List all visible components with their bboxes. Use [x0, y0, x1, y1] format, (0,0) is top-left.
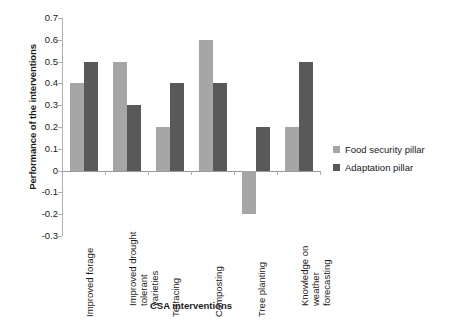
- x-axis-tick-mark: [277, 171, 278, 175]
- y-axis-tick-label: 0.3: [26, 100, 58, 110]
- y-axis-tick-label: 0.2: [26, 122, 58, 132]
- y-axis-tick-mark: [58, 171, 62, 172]
- x-axis-category-label: Knowledge on weather forecasting: [299, 220, 332, 306]
- legend-item[interactable]: Adaptation pillar: [333, 158, 449, 176]
- legend-label: Adaptation pillar: [345, 162, 413, 173]
- bar-chart-figure: Performance of the interventions 0.70.60…: [0, 0, 451, 328]
- x-axis-tick-mark: [148, 171, 149, 175]
- y-axis-tick-mark: [58, 105, 62, 106]
- x-axis-tick-mark: [234, 171, 235, 175]
- bar: [70, 83, 84, 170]
- legend-label: Food security pillar: [345, 144, 425, 155]
- legend-swatch-icon: [333, 146, 340, 153]
- y-axis-tick-mark: [58, 214, 62, 215]
- y-axis-tick-mark: [58, 192, 62, 193]
- y-axis-line: [62, 18, 63, 236]
- y-axis-tick-mark: [58, 83, 62, 84]
- bar: [156, 127, 170, 171]
- legend-item[interactable]: Food security pillar: [333, 140, 449, 158]
- x-axis-tick-mark: [105, 171, 106, 175]
- x-axis-category-label: Improved drought tolerant varieties: [127, 220, 160, 306]
- y-axis-tick-label: 0.1: [26, 144, 58, 154]
- legend-swatch-icon: [333, 164, 340, 171]
- bar: [170, 83, 184, 170]
- bar: [199, 40, 213, 171]
- y-axis-tick-mark: [58, 127, 62, 128]
- y-axis-tick-mark: [58, 236, 62, 237]
- y-axis-tick-label: -0.3: [26, 231, 58, 241]
- y-axis-tick-label: 0.7: [26, 13, 58, 23]
- y-axis-tick-mark: [58, 149, 62, 150]
- bar: [113, 62, 127, 171]
- y-axis-tick-label: -0.2: [26, 209, 58, 219]
- bar: [127, 105, 141, 170]
- bar: [242, 171, 256, 215]
- bar: [285, 127, 299, 171]
- y-axis-tick-label: -0.1: [26, 187, 58, 197]
- y-axis-tick-mark: [58, 18, 62, 19]
- y-axis-tick-mark: [58, 62, 62, 63]
- bar: [256, 127, 270, 171]
- y-axis-tick-mark: [58, 40, 62, 41]
- x-axis-title: CSA interventions: [62, 300, 320, 311]
- chart-legend: Food security pillarAdaptation pillar: [333, 140, 449, 176]
- y-axis-tick-label: 0.4: [26, 78, 58, 88]
- bar: [299, 62, 313, 171]
- x-axis-tick-mark: [191, 171, 192, 175]
- plot-area: [62, 18, 320, 236]
- x-axis-tick-mark: [320, 171, 321, 175]
- bar: [213, 83, 227, 170]
- y-axis-tick-labels: 0.70.60.50.40.30.20.10-0.1-0.2-0.3: [26, 18, 58, 236]
- y-axis-tick-label: 0.5: [26, 57, 58, 67]
- y-axis-tick-label: 0.6: [26, 35, 58, 45]
- bar: [84, 62, 98, 171]
- y-axis-tick-label: 0: [26, 166, 58, 176]
